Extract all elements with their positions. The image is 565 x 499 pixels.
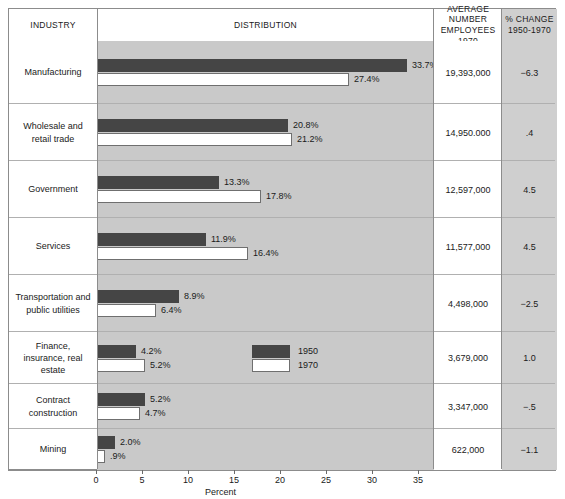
x-tick-label: 30 — [357, 475, 387, 485]
bar-1950 — [97, 119, 288, 132]
legend-item-1950-label: 1950 — [298, 345, 318, 358]
header-industry-label: INDUSTRY — [30, 20, 75, 31]
bar-value-1950: 4.2% — [141, 345, 162, 358]
x-tick — [234, 470, 235, 474]
employees-cell: 3,679,000 — [434, 332, 502, 384]
bar-value-1970: 6.4% — [161, 304, 182, 317]
table-row: Transportation and public utilities8.9%6… — [9, 275, 555, 332]
employees-cell: 19,393,000 — [434, 41, 502, 104]
legend-item-1950: 1950 — [252, 345, 318, 358]
x-tick — [418, 470, 419, 474]
percent-change-cell: −1.1 — [502, 429, 557, 470]
bar-1950 — [97, 436, 115, 449]
table-row: Contract construction5.2%4.7%3,347,000−.… — [9, 384, 555, 429]
bar-value-1950: 20.8% — [293, 119, 319, 132]
column-rule-1 — [97, 9, 98, 469]
bar-1970 — [97, 359, 145, 372]
table-row: Manufacturing33.7%27.4%19,393,000−6.3 — [9, 41, 555, 104]
percent-change-cell: −2.5 — [502, 275, 557, 332]
industry-label: Government — [9, 161, 97, 218]
bar-value-1950: 5.2% — [150, 393, 171, 406]
column-rule-2 — [433, 9, 434, 469]
percent-change-cell: .4 — [502, 104, 557, 161]
header-industry: INDUSTRY — [9, 9, 97, 41]
bar-value-1970: 16.4% — [253, 247, 279, 260]
industry-label: Mining — [9, 429, 97, 470]
header-percent-change: % CHANGE 1950-1970 — [502, 9, 557, 41]
x-tick-label: 0 — [81, 475, 111, 485]
x-axis: 05101520253035 Percent — [8, 470, 556, 499]
x-tick — [188, 470, 189, 474]
legend-item-1950-swatch — [252, 345, 290, 358]
bar-1970 — [97, 304, 156, 317]
industry-label: Services — [9, 218, 97, 275]
header-employees: AVERAGE NUMBER EMPLOYEES 1970 — [434, 9, 502, 41]
header-employees-label: AVERAGE NUMBER EMPLOYEES 1970 — [434, 4, 502, 47]
table-row: Services11.9%16.4%11,577,0004.5 — [9, 218, 555, 275]
table-row: Mining2.0%.9%622,000−1.1 — [9, 429, 555, 470]
industry-label: Transportation and public utilities — [9, 275, 97, 332]
x-tick-label: 15 — [219, 475, 249, 485]
x-tick-label: 5 — [127, 475, 157, 485]
bar-value-1970: 17.8% — [266, 190, 292, 203]
header-change-label: % CHANGE 1950-1970 — [505, 14, 553, 35]
header-change-line1: % CHANGE — [505, 14, 553, 24]
x-axis-line — [8, 470, 556, 471]
employees-cell: 12,597,000 — [434, 161, 502, 218]
industry-label: Manufacturing — [9, 41, 97, 104]
percent-change-cell: −.5 — [502, 384, 557, 429]
legend-item-1970-label: 1970 — [298, 359, 318, 372]
legend-item-1970: 1970 — [252, 359, 318, 372]
bar-value-1970: 5.2% — [150, 359, 171, 372]
bar-value-1950: 11.9% — [211, 233, 236, 246]
industry-label: Contract construction — [9, 384, 97, 429]
table-frame: INDUSTRY DISTRIBUTION AVERAGE NUMBER EMP… — [8, 8, 556, 470]
employees-cell: 14,950.000 — [434, 104, 502, 161]
table-row: Wholesale and retail trade20.8%21.2%14,9… — [9, 104, 555, 161]
header-employees-line1: AVERAGE NUMBER — [447, 4, 489, 25]
industry-label: Finance, insurance, real estate — [9, 332, 97, 384]
header-change-line2: 1950-1970 — [508, 25, 551, 35]
bar-1950 — [97, 393, 145, 406]
percent-change-cell: 1.0 — [502, 332, 557, 384]
header-distribution: DISTRIBUTION — [97, 9, 434, 41]
x-tick — [326, 470, 327, 474]
x-tick-label: 35 — [403, 475, 433, 485]
bar-value-1950: 13.3% — [224, 176, 250, 189]
legend-item-1970-swatch — [252, 359, 290, 372]
employees-cell: 4,498,000 — [434, 275, 502, 332]
bar-1970 — [97, 133, 292, 146]
x-tick — [142, 470, 143, 474]
bar-value-1950: 8.9% — [184, 290, 205, 303]
header-distribution-label: DISTRIBUTION — [234, 20, 297, 31]
x-tick — [96, 470, 97, 474]
employees-cell: 622,000 — [434, 429, 502, 470]
bar-1950 — [97, 233, 206, 246]
bar-value-1950: 2.0% — [120, 436, 141, 449]
bar-1950 — [97, 176, 219, 189]
x-tick-label: 10 — [173, 475, 203, 485]
bar-value-1970: 21.2% — [297, 133, 323, 146]
table-row: Government13.3%17.8%12,597,0004.5 — [9, 161, 555, 218]
employees-cell: 3,347,000 — [434, 384, 502, 429]
bar-1950 — [97, 345, 136, 358]
bar-1950 — [97, 59, 407, 72]
x-tick-label: 25 — [311, 475, 341, 485]
bar-value-1970: .9% — [110, 450, 126, 463]
percent-change-cell: 4.5 — [502, 161, 557, 218]
header-employees-line2: EMPLOYEES — [441, 25, 496, 35]
bar-1970 — [97, 407, 140, 420]
bar-1950 — [97, 290, 179, 303]
employees-cell: 11,577,000 — [434, 218, 502, 275]
bar-1970 — [97, 73, 349, 86]
table-row: Finance, insurance, real estate4.2%5.2%1… — [9, 332, 555, 384]
bar-value-1970: 4.7% — [145, 407, 166, 420]
percent-change-cell: 4.5 — [502, 218, 557, 275]
x-axis-title: Percent — [8, 487, 433, 497]
x-tick — [280, 470, 281, 474]
column-rule-3 — [501, 9, 502, 469]
bar-1970 — [97, 247, 248, 260]
x-tick-label: 20 — [265, 475, 295, 485]
bar-1970 — [97, 190, 261, 203]
industry-distribution-chart: INDUSTRY DISTRIBUTION AVERAGE NUMBER EMP… — [0, 0, 565, 499]
